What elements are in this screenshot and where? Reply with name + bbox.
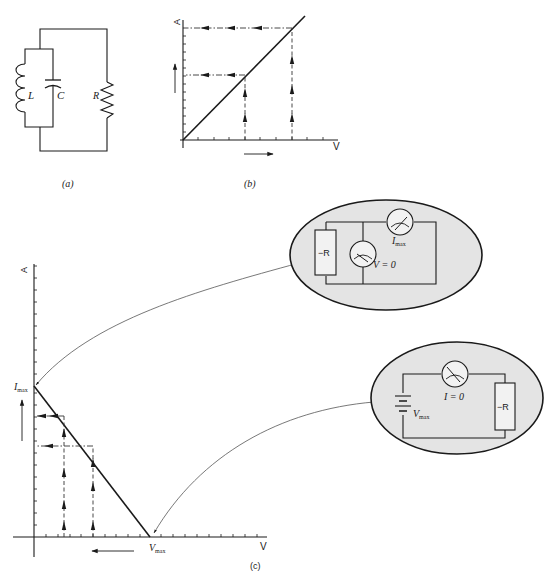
inset-2-ammeter-value: I = 0	[443, 391, 464, 402]
panel-b-graph: A V (b)	[172, 16, 340, 190]
panel-c-label: (c)	[250, 561, 261, 571]
figure-canvas: L C R (a)	[0, 0, 551, 581]
ammeter-icon	[387, 209, 413, 235]
inset-2-resistor-label: −R	[497, 402, 509, 412]
c-arrowheads	[37, 414, 95, 530]
inductor-icon	[16, 64, 25, 112]
tank-top	[25, 49, 53, 80]
resistor-icon	[101, 82, 113, 118]
panel-c-graph: A V Imax Vmax (c)	[13, 264, 267, 571]
resistor-label: R	[92, 90, 99, 101]
vmax-label: Vmax	[149, 542, 165, 554]
panel-b-label: (b)	[244, 178, 256, 190]
b-x-axis-label: V	[333, 141, 340, 152]
capacitor-label: C	[57, 89, 65, 101]
c-characteristic-line	[34, 386, 150, 537]
inset-open-circuit: Vmax I = 0 −R	[371, 342, 543, 454]
wire-top	[40, 29, 107, 82]
inductor-label: L	[27, 89, 34, 101]
wire-bottom	[40, 118, 107, 151]
b-y-axis-label: A	[172, 19, 182, 25]
imax-label: Imax	[13, 381, 28, 393]
panel-a-circuit: L C R (a)	[16, 29, 113, 190]
connector-to-imax	[36, 263, 299, 385]
inset-1-voltmeter-value: V = 0	[373, 259, 396, 270]
inset-short-circuit: −R V = 0 Imax	[290, 200, 482, 310]
inset-1-resistor-label: −R	[318, 248, 330, 258]
ammeter-icon	[442, 361, 468, 387]
connector-to-vmax	[154, 402, 374, 533]
panel-a-label: (a)	[62, 178, 74, 190]
c-x-axis-label: V	[260, 541, 267, 552]
c-y-axis-label: A	[19, 267, 29, 273]
